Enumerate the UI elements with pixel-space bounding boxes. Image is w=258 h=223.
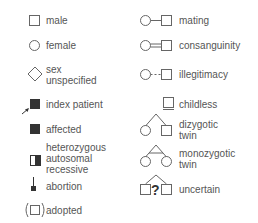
dizygotic-twin-icon bbox=[140, 113, 176, 137]
legend-label: index patient bbox=[46, 99, 103, 110]
square-outline-icon bbox=[29, 15, 41, 27]
abortion-icon bbox=[30, 177, 38, 193]
legend-label: adopted bbox=[46, 205, 82, 216]
legend-label: sex bbox=[46, 64, 62, 75]
double-line-icon bbox=[140, 40, 176, 52]
legend-label: mating bbox=[179, 15, 209, 26]
legend-label: dizygotic bbox=[179, 119, 218, 130]
legend-label: twin bbox=[179, 130, 197, 141]
bracketed-square-icon bbox=[24, 202, 46, 218]
legend-label: twin bbox=[179, 159, 197, 170]
mating-line-icon bbox=[140, 15, 176, 27]
legend-label: consanguinity bbox=[179, 40, 240, 51]
legend-label: heterozygous bbox=[46, 142, 106, 153]
monozygotic-twin-icon bbox=[140, 144, 176, 168]
legend-label: recessive bbox=[46, 164, 88, 175]
legend-label: monozygotic bbox=[179, 148, 235, 159]
uncertain-symbol: ? bbox=[151, 183, 160, 197]
legend-label: autosomal bbox=[46, 153, 92, 164]
legend-label: male bbox=[46, 15, 68, 26]
legend-label: affected bbox=[46, 124, 81, 135]
circle-outline-icon bbox=[29, 40, 41, 52]
filled-square-arrow-icon bbox=[20, 99, 42, 119]
legend-label: abortion bbox=[46, 181, 82, 192]
half-filled-square-icon bbox=[30, 155, 42, 167]
dashed-line-icon bbox=[140, 69, 176, 81]
legend-label: uncertain bbox=[179, 184, 220, 195]
diamond-outline-icon bbox=[27, 66, 43, 82]
legend-label: childless bbox=[179, 99, 217, 110]
legend-label: female bbox=[46, 40, 76, 51]
childless-icon bbox=[163, 97, 175, 111]
filled-square-icon bbox=[30, 124, 41, 135]
legend-label: illegitimacy bbox=[179, 69, 228, 80]
legend-label: unspecified bbox=[46, 75, 97, 86]
